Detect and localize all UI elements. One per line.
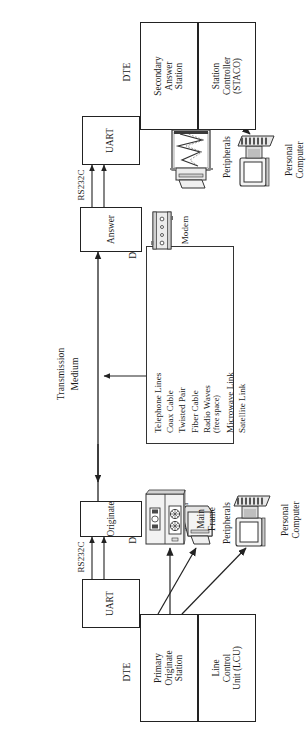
personal-computer-icon [232,492,276,548]
medium-option-6: Microwave Link [226,253,235,433]
personal-computer-label-left: Personal Computer [280,484,301,556]
rs232c-left-connector [92,537,104,579]
line-control-unit-box[interactable]: Line Control Unit (LCU) [198,614,256,722]
station-controller-label: Station Controller (STACO) [211,57,244,95]
diagram-canvas: DTE Primary Originate Station Line Contr… [0,0,306,744]
primary-uart-box[interactable]: UART [82,579,140,628]
personal-computer-label-right: Personal Computer [284,124,305,196]
medium-option-4: Radio Waves [203,253,212,433]
line-control-unit-label: Line Control Unit (LCU) [211,646,244,690]
secondary-answer-station-label: Secondary Answer Station [153,56,186,95]
medium-option-5: (free space) [213,253,221,433]
originate-modem-label: Originate [106,501,117,536]
rs232c-left-label: RS232C [76,538,86,576]
answer-modem-icon [150,210,176,250]
personal-computer-icon [236,132,280,188]
right-peripherals-label: Peripherals [222,122,233,192]
secondary-uart-box[interactable]: UART [82,116,140,165]
transmission-medium-options: Telephone Lines Coax Cable Twisted Pair … [154,253,250,433]
station-controller-box[interactable]: Station Controller (STACO) [198,22,256,130]
lcu-peripheral-links [158,548,246,614]
primary-originate-station-label: Primary Originate Station [153,650,186,685]
rs232c-right-connector [92,165,104,207]
diagram-page: DTE Primary Originate Station Line Contr… [0,0,306,744]
secondary-uart-label: UART [105,128,116,153]
answer-modem-label: Answer [106,215,117,244]
medium-option-0: Telephone Lines [154,253,163,433]
primary-dte-role-label: DTE [122,652,133,692]
mainframe-label: Main Frame [196,486,217,552]
answer-modem-box[interactable]: Answer [80,207,142,252]
primary-originate-station-box[interactable]: Primary Originate Station [140,614,198,722]
answer-modem-device-label: Modem [180,208,190,252]
secondary-answer-station-box[interactable]: Secondary Answer Station [140,22,198,130]
medium-option-7: Satellite Link [238,253,247,433]
mainframe-icon [144,488,188,546]
rs232c-right-label: RS232C [76,166,86,204]
transmission-medium-label-line2: Medium [70,344,81,404]
medium-option-1: Coax Cable [166,253,175,433]
plotter-icon [168,126,216,190]
medium-option-3: Fiber Cable [191,253,200,433]
originate-modem-box[interactable]: Originate [80,501,142,537]
primary-uart-label: UART [105,591,116,616]
medium-option-2: Twisted Pair [178,253,187,433]
secondary-dte-role-label: DTE [122,52,133,92]
transmission-medium-label-line1: Transmission [56,329,67,419]
